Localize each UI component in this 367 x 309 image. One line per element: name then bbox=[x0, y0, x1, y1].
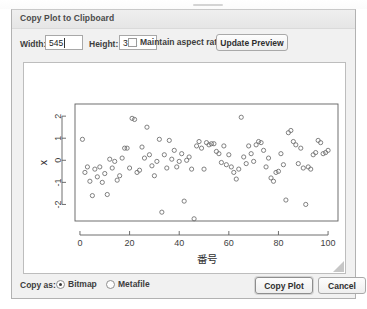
data-point bbox=[113, 159, 117, 163]
data-point bbox=[83, 170, 87, 174]
data-point bbox=[261, 148, 265, 152]
data-point bbox=[100, 180, 104, 184]
data-point bbox=[120, 156, 124, 160]
data-point bbox=[284, 198, 288, 202]
data-point bbox=[304, 202, 308, 206]
scatter-plot: 020406080100210-1-2番号x bbox=[24, 63, 345, 273]
data-point bbox=[264, 165, 268, 169]
data-point bbox=[234, 177, 238, 181]
data-point bbox=[187, 155, 191, 159]
radio-metafile-icon bbox=[106, 280, 115, 289]
radio-bitmap-label: Bitmap bbox=[68, 279, 97, 289]
data-point bbox=[105, 192, 109, 196]
y-tick-label: 1 bbox=[53, 136, 63, 141]
data-point bbox=[192, 217, 196, 221]
data-point bbox=[155, 159, 159, 163]
resize-grip-icon[interactable] bbox=[333, 261, 344, 272]
data-point bbox=[197, 139, 201, 143]
dialog-title: Copy Plot to Clipboard bbox=[20, 13, 114, 23]
data-point bbox=[140, 145, 144, 149]
radio-metafile[interactable]: Metafile bbox=[106, 279, 150, 289]
data-point bbox=[227, 153, 231, 157]
data-point bbox=[194, 144, 198, 148]
y-tick-label: 0 bbox=[53, 158, 63, 163]
data-point bbox=[98, 165, 102, 169]
x-tick-label: 80 bbox=[273, 238, 283, 248]
data-point bbox=[299, 146, 303, 150]
data-point bbox=[232, 170, 236, 174]
data-point bbox=[190, 167, 194, 171]
data-point bbox=[160, 210, 164, 214]
data-point bbox=[95, 175, 99, 179]
data-point bbox=[145, 125, 149, 129]
data-point bbox=[281, 163, 285, 167]
copy-plot-dialog: Copy Plot to Clipboard Width: 545 Height… bbox=[11, 9, 356, 299]
data-point bbox=[115, 178, 119, 182]
x-axis-title: 番号 bbox=[197, 253, 217, 265]
data-point bbox=[177, 159, 181, 163]
x-tick-label: 60 bbox=[224, 238, 234, 248]
x-tick-label: 20 bbox=[125, 238, 135, 248]
data-point bbox=[118, 174, 122, 178]
data-point bbox=[301, 166, 305, 170]
x-tick-label: 0 bbox=[77, 238, 82, 248]
data-point bbox=[279, 152, 283, 156]
data-point bbox=[239, 115, 243, 119]
y-tick-label: -1 bbox=[53, 178, 63, 186]
data-point bbox=[88, 179, 92, 183]
data-point bbox=[157, 137, 161, 141]
data-point bbox=[108, 157, 112, 161]
data-point bbox=[266, 156, 270, 160]
data-point bbox=[142, 156, 146, 160]
screenshot-root: Copy Plot to Clipboard Width: 545 Height… bbox=[0, 0, 367, 309]
data-point bbox=[152, 174, 156, 178]
data-point bbox=[147, 153, 151, 157]
y-axis-title: x bbox=[37, 159, 49, 165]
data-point bbox=[110, 166, 114, 170]
window-chrome-nub bbox=[193, 4, 223, 6]
data-point bbox=[271, 179, 275, 183]
dialog-titlebar: Copy Plot to Clipboard bbox=[12, 10, 355, 29]
checkbox-box-icon bbox=[128, 38, 137, 47]
cancel-button[interactable]: Cancel bbox=[318, 277, 366, 294]
y-tick-label: -2 bbox=[53, 200, 63, 208]
maintain-aspect-ratio-checkbox[interactable]: Maintain aspect ratio bbox=[128, 37, 225, 47]
width-input[interactable]: 545 bbox=[45, 35, 83, 50]
data-point bbox=[103, 171, 107, 175]
data-point bbox=[180, 152, 184, 156]
width-label: Width: bbox=[20, 39, 46, 49]
data-point bbox=[244, 162, 248, 166]
dialog-footer: Copy as: Bitmap Metafile Copy Plot Cance… bbox=[12, 272, 355, 298]
text-caret bbox=[64, 38, 65, 48]
data-point bbox=[150, 164, 154, 168]
data-point bbox=[296, 162, 300, 166]
width-input-value: 545 bbox=[49, 38, 63, 48]
height-label: Height: bbox=[89, 39, 118, 49]
radio-bitmap[interactable]: Bitmap bbox=[56, 279, 97, 289]
data-point bbox=[237, 167, 241, 171]
data-point bbox=[252, 159, 256, 163]
data-point bbox=[170, 157, 174, 161]
cancel-button-label: Cancel bbox=[328, 281, 356, 291]
data-point bbox=[222, 144, 226, 148]
data-point bbox=[162, 153, 166, 157]
data-point bbox=[127, 166, 131, 170]
data-point bbox=[202, 167, 206, 171]
plot-layer: 020406080100210-1-2番号x bbox=[37, 104, 338, 265]
settings-toolbar: Width: 545 Height: 372 Maintain aspect r… bbox=[12, 29, 355, 59]
data-point bbox=[247, 144, 251, 148]
window-chrome-strip bbox=[0, 0, 367, 9]
maintain-aspect-ratio-label: Maintain aspect ratio bbox=[140, 37, 225, 47]
copy-plot-button[interactable]: Copy Plot bbox=[255, 277, 313, 294]
plot-preview-panel[interactable]: 020406080100210-1-2番号x bbox=[23, 62, 346, 274]
data-point bbox=[85, 165, 89, 169]
x-tick-label: 100 bbox=[321, 238, 336, 248]
update-preview-button[interactable]: Update Preview bbox=[216, 34, 288, 51]
data-point bbox=[294, 143, 298, 147]
data-point bbox=[242, 155, 246, 159]
data-point bbox=[224, 163, 228, 167]
radio-metafile-label: Metafile bbox=[118, 279, 150, 289]
x-tick-label: 40 bbox=[174, 238, 184, 248]
data-point bbox=[229, 165, 233, 169]
data-point bbox=[80, 137, 84, 141]
